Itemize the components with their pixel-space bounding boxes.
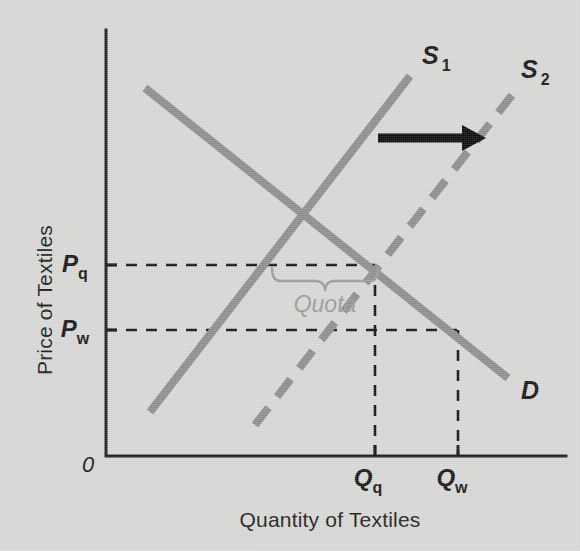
quota-label: Quota	[294, 291, 357, 317]
x-axis-title: Quantity of Textiles	[239, 508, 420, 531]
price-label-pq-base: P	[62, 250, 79, 277]
quantity-label-qq-base: Q	[354, 464, 373, 491]
supply-curve-label-s2-sub: 2	[541, 71, 550, 88]
supply-curve-label-s1-base: S	[422, 41, 439, 69]
demand-curve-label: D	[521, 376, 539, 404]
origin-label: 0	[82, 452, 95, 477]
supply-curve-label-s2-base: S	[521, 55, 538, 83]
economics-quota-diagram: Price of Textiles Quantity of Textiles 0…	[0, 0, 580, 551]
quantity-label-qw-base: Q	[436, 464, 455, 491]
diagram-canvas: Price of Textiles Quantity of Textiles 0…	[0, 0, 580, 551]
quantity-label-qw-sub: w	[454, 479, 468, 496]
price-label-pw-base: P	[61, 315, 78, 342]
quantity-label-qq-sub: q	[372, 479, 382, 496]
supply-curve-label-s1-sub: 1	[442, 57, 451, 74]
price-label-pw-sub: w	[76, 330, 90, 347]
price-label-pq-sub: q	[78, 265, 88, 282]
y-axis-title: Price of Textiles	[33, 225, 56, 375]
